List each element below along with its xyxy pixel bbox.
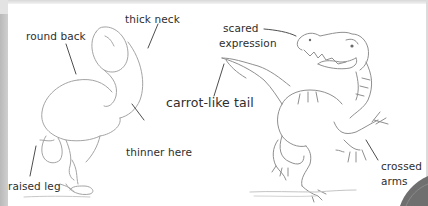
label-arms: arms bbox=[381, 175, 408, 187]
label-thick-neck: thick neck bbox=[125, 13, 180, 25]
label-expression: expression bbox=[219, 37, 277, 49]
construction-figure bbox=[24, 27, 143, 197]
trex-figure bbox=[222, 32, 388, 202]
label-thinner-here: thinner here bbox=[126, 146, 192, 158]
label-raised-leg: raised leg bbox=[8, 180, 61, 192]
label-crossed: crossed bbox=[381, 160, 422, 172]
label-carrot-like-tail: carrot-like tail bbox=[166, 96, 254, 110]
label-scared: scared bbox=[223, 22, 259, 34]
book-page: round back thick neck thinner here raise… bbox=[0, 0, 428, 206]
label-round-back: round back bbox=[26, 30, 86, 42]
